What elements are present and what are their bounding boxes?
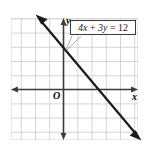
equation-text: 4x + 3y = 12 <box>78 23 128 33</box>
coordinate-plane-figure: 4x + 3y = 12 y x O <box>0 0 147 148</box>
equation-equals: = <box>110 22 116 33</box>
equation-var-y: y <box>103 22 107 33</box>
equation-var-x: x <box>83 22 87 33</box>
equation-plus: + <box>90 22 96 33</box>
equation-callout-box: 4x + 3y = 12 <box>70 20 136 35</box>
y-axis-label: y <box>66 16 70 26</box>
grid-lines <box>7 18 138 140</box>
equation-constant: 12 <box>118 22 128 33</box>
x-axis-label: x <box>132 92 137 102</box>
origin-label: O <box>53 91 60 101</box>
